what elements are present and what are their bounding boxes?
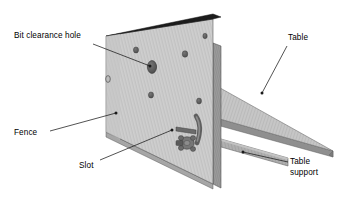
label-fence: Fence [14, 128, 37, 138]
label-slot: Slot [79, 161, 94, 171]
mounting-hole [148, 92, 153, 98]
fence-side-edge [213, 43, 221, 188]
fence-end-hole [106, 76, 111, 83]
table-top-surface [213, 84, 333, 151]
leader-dot-fence [115, 112, 118, 115]
knob-center-cap [184, 140, 190, 145]
fence-part [106, 14, 221, 189]
leader-dot-table-support [242, 151, 245, 154]
knob-lobe [190, 136, 195, 141]
knob-lobe [190, 147, 195, 152]
label-table: Table [288, 33, 308, 43]
mounting-hole [182, 51, 188, 58]
label-bit-clearance-hole: Bit clearance hole [14, 31, 81, 41]
diagram-canvas: Bit clearance holeTableFenceSlotTable su… [0, 0, 342, 214]
mounting-hole [203, 33, 207, 39]
knob-lobe [178, 146, 183, 151]
label-table-support: Table support [290, 157, 318, 178]
leader-dot-slot [171, 129, 174, 132]
leader-dot-table [261, 92, 264, 95]
clamp-bolt-stud [176, 141, 183, 146]
leader-line-table [262, 46, 287, 93]
mounting-hole [197, 98, 202, 104]
mounting-hole [133, 47, 138, 53]
knob-lobe [178, 136, 183, 141]
bit-clearance-hole [147, 61, 156, 74]
leader-dot-bit-clearance-hole [149, 65, 152, 68]
